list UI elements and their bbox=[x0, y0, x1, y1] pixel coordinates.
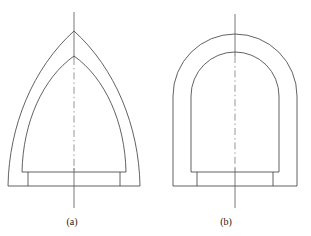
outer-arch-left-a bbox=[8, 31, 74, 186]
outer-arch-right-a bbox=[74, 31, 140, 186]
inner-arch-right-a bbox=[74, 56, 126, 172]
figure-plate: (a) (b) bbox=[0, 0, 311, 236]
panel-a-pointed-arch bbox=[8, 12, 140, 208]
cross-section-drawing bbox=[0, 0, 311, 236]
panel-b-round-arch bbox=[173, 14, 297, 208]
panel-caption-b: (b) bbox=[206, 216, 246, 227]
inner-arch-left-a bbox=[22, 56, 74, 172]
inner-profile-b bbox=[191, 52, 279, 172]
panel-caption-a: (a) bbox=[52, 216, 92, 227]
